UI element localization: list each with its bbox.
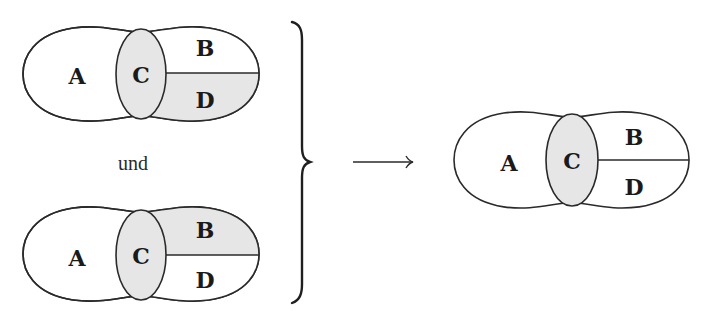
label-b: B (196, 35, 215, 61)
label-d: D (195, 87, 214, 113)
label-c: C (132, 243, 150, 269)
label-b: B (625, 124, 644, 150)
diagram-canvas: A C B D A C B D A C B D (0, 0, 707, 317)
label-a: A (67, 63, 86, 89)
label-c: C (132, 62, 150, 88)
label-d: D (195, 267, 214, 293)
connector-text-und: und (118, 152, 148, 175)
venn-diagram-premise-1: A C B D (23, 26, 261, 125)
venn-diagram-premise-2: A C B D (23, 206, 261, 305)
label-a: A (67, 245, 86, 271)
venn-diagram-conclusion: A C B D (454, 112, 689, 208)
right-brace-icon (292, 22, 310, 303)
label-c: C (563, 148, 581, 174)
long-right-arrow-icon (353, 156, 413, 168)
label-b: B (196, 217, 215, 243)
label-a: A (499, 150, 518, 176)
label-d: D (624, 174, 643, 200)
